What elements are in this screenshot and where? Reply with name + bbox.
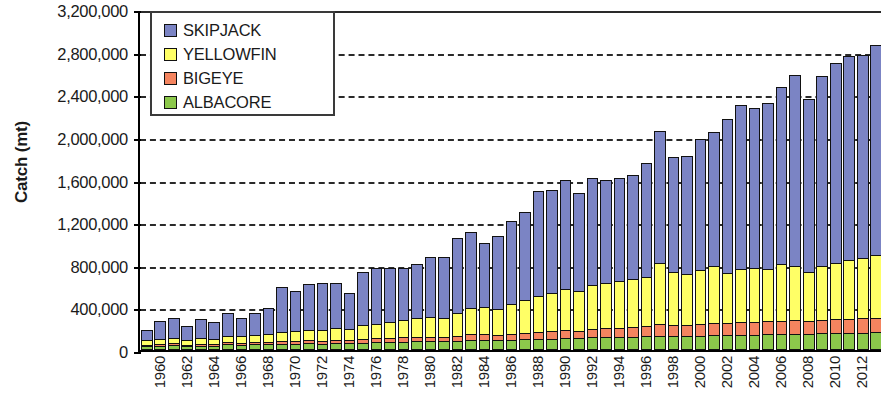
bar-segment-albacore: [141, 346, 153, 350]
bar-column[interactable]: [870, 45, 881, 350]
bar-column[interactable]: [344, 293, 356, 350]
bar-segment-albacore: [546, 339, 558, 351]
bar-column[interactable]: [789, 75, 801, 350]
y-axis-tick-label: 800,000: [70, 257, 128, 276]
bar-column[interactable]: [641, 163, 653, 350]
bar-column[interactable]: [614, 178, 626, 350]
bar-segment-skipjack: [249, 313, 261, 336]
bar-column[interactable]: [600, 180, 612, 350]
legend-item[interactable]: BIGEYE: [164, 66, 333, 90]
bar-column[interactable]: [290, 291, 302, 350]
y-axis-tick-mark: [134, 96, 141, 98]
bar-column[interactable]: [208, 322, 220, 350]
bar-column[interactable]: [181, 326, 193, 350]
bar-segment-skipjack: [560, 180, 572, 289]
bar-segment-yellowfin: [357, 325, 369, 339]
bar-column[interactable]: [857, 55, 869, 350]
bar-column[interactable]: [357, 272, 369, 350]
x-axis-tick-label: 1996: [637, 356, 654, 388]
bar-column[interactable]: [452, 238, 464, 350]
bar-column[interactable]: [479, 243, 491, 350]
bar-column[interactable]: [749, 108, 761, 350]
bar-segment-albacore: [587, 337, 599, 350]
bar-segment-yellowfin: [762, 269, 774, 322]
bar-column[interactable]: [506, 221, 518, 350]
bar-segment-yellowfin: [573, 291, 585, 332]
bar-column[interactable]: [681, 156, 693, 350]
bar-column[interactable]: [816, 76, 828, 350]
bar-column[interactable]: [708, 132, 720, 350]
bar-segment-albacore: [452, 341, 464, 350]
x-axis-tick-label: 1980: [421, 356, 438, 388]
bar-column[interactable]: [722, 119, 734, 350]
bar-segment-albacore: [438, 341, 450, 350]
bar-column[interactable]: [398, 268, 410, 350]
bar-column[interactable]: [492, 236, 504, 350]
bar-column[interactable]: [830, 63, 842, 350]
bar-column[interactable]: [803, 99, 815, 350]
legend-swatch-icon: [164, 48, 177, 61]
bar-column[interactable]: [249, 313, 261, 350]
bar-segment-yellowfin: [735, 269, 747, 323]
legend-item[interactable]: SKIPJACK: [164, 18, 333, 42]
bar-segment-skipjack: [681, 156, 693, 275]
legend-item[interactable]: YELLOWFIN: [164, 42, 333, 66]
bar-column[interactable]: [141, 330, 153, 350]
bar-column[interactable]: [546, 190, 558, 350]
bar-segment-albacore: [681, 336, 693, 350]
bar-column[interactable]: [276, 287, 288, 350]
bar-segment-skipjack: [452, 238, 464, 314]
bar-segment-albacore: [249, 344, 261, 350]
bar-column[interactable]: [668, 157, 680, 350]
bar-column[interactable]: [195, 319, 207, 350]
bar-column[interactable]: [154, 321, 166, 350]
bar-segment-yellowfin: [695, 270, 707, 325]
bar-segment-bigeye: [857, 318, 869, 333]
y-axis-tick-mark: [134, 139, 141, 141]
bar-segment-yellowfin: [425, 317, 437, 338]
bar-column[interactable]: [843, 56, 855, 350]
bar-column[interactable]: [303, 284, 315, 350]
y-axis-tick-mark: [134, 267, 141, 269]
bar-column[interactable]: [762, 103, 774, 350]
bar-segment-skipjack: [384, 268, 396, 324]
bar-column[interactable]: [236, 318, 248, 350]
bar-segment-skipjack: [195, 319, 207, 339]
bar-column[interactable]: [533, 191, 545, 350]
bar-segment-skipjack: [614, 178, 626, 282]
bar-column[interactable]: [425, 257, 437, 350]
bar-column[interactable]: [222, 313, 234, 350]
y-axis-tick-mark: [134, 11, 141, 13]
bar-column[interactable]: [411, 264, 423, 350]
bar-segment-albacore: [830, 333, 842, 350]
bar-segment-skipjack: [749, 108, 761, 269]
bar-column[interactable]: [438, 257, 450, 350]
bar-column[interactable]: [168, 318, 180, 350]
bar-segment-bigeye: [843, 319, 855, 334]
bar-segment-albacore: [600, 337, 612, 350]
bar-column[interactable]: [735, 105, 747, 350]
bar-segment-yellowfin: [681, 274, 693, 326]
bar-column[interactable]: [263, 308, 275, 350]
bar-column[interactable]: [330, 283, 342, 350]
bar-column[interactable]: [384, 268, 396, 350]
bar-column[interactable]: [695, 139, 707, 350]
bar-column[interactable]: [519, 212, 531, 350]
x-axis-tick-label: 1966: [232, 356, 249, 388]
bar-column[interactable]: [627, 175, 639, 350]
bar-column[interactable]: [371, 268, 383, 350]
bar-column[interactable]: [317, 283, 329, 350]
bar-column[interactable]: [560, 180, 572, 350]
bar-segment-yellowfin: [843, 260, 855, 320]
bar-segment-albacore: [870, 332, 881, 350]
bar-column[interactable]: [776, 87, 788, 350]
bar-column[interactable]: [654, 131, 666, 350]
bar-column[interactable]: [573, 193, 585, 350]
bar-column[interactable]: [587, 178, 599, 350]
legend-label: ALBACORE: [183, 93, 271, 112]
bar-segment-albacore: [236, 345, 248, 350]
legend-item[interactable]: ALBACORE: [164, 90, 333, 114]
legend-swatch-icon: [164, 96, 177, 109]
bar-column[interactable]: [465, 232, 477, 350]
y-axis-tick-label: 2,800,000: [57, 44, 128, 63]
